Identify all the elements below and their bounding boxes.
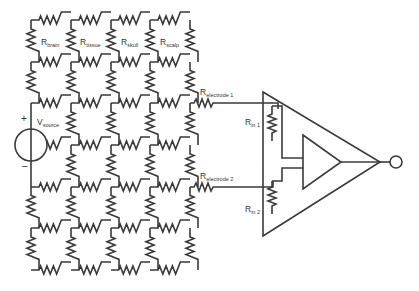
label-r-brain: Rbrain — [41, 38, 59, 49]
circuit-diagram — [0, 0, 419, 291]
label-r-tissue: Rtissue — [80, 38, 101, 49]
label-v-source: Vsource — [37, 118, 59, 129]
minus-sign: – — [22, 161, 28, 171]
instrumentation-amplifier — [263, 92, 402, 236]
label-r-electrode-2: Relectrode 2 — [200, 172, 233, 183]
label-r-scalp: Rscalp — [160, 38, 179, 49]
label-r-skull: Rskull — [121, 38, 138, 49]
label-r-in-1: Rin 1 — [245, 118, 260, 129]
label-r-in-2: Rin 2 — [245, 205, 260, 216]
label-r-electrode-1: Relectrode 1 — [200, 88, 233, 99]
plus-sign: + — [21, 114, 27, 124]
resistor-mesh — [27, 12, 198, 274]
electrode-2-lead — [190, 181, 273, 191]
voltage-source — [15, 129, 47, 161]
electrode-1-lead — [190, 99, 278, 109]
